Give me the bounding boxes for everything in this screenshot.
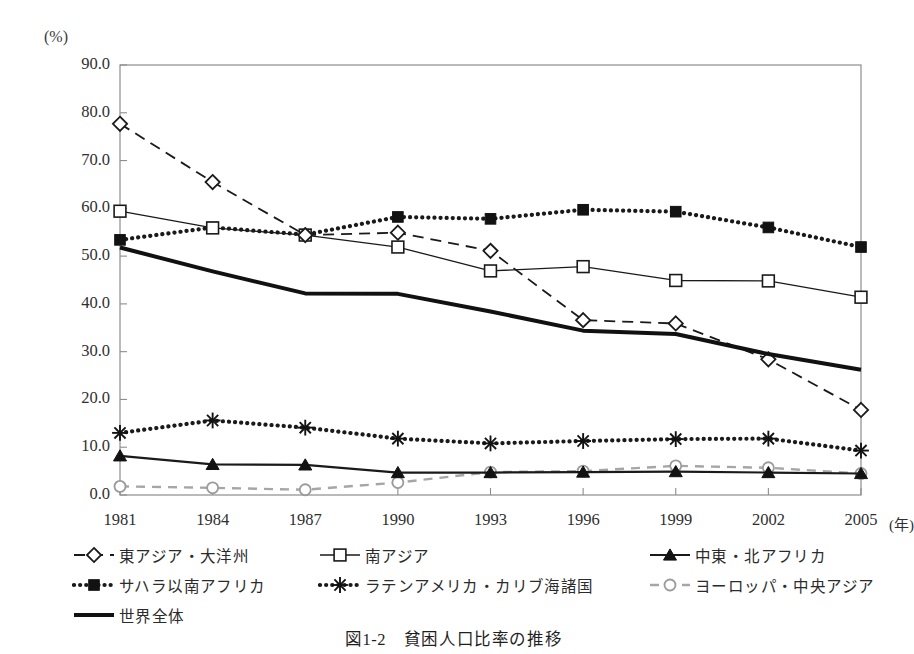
legend-item[interactable]: サハラ以南アフリカ [72, 570, 266, 600]
y-tick-label: 10.0 [48, 436, 110, 456]
marker-filled-square [670, 206, 681, 217]
legend-item[interactable]: ヨーロッパ・中央アジア [648, 570, 874, 600]
legend-item-label: ヨーロッパ・中央アジア [695, 574, 874, 596]
x-tick-label: 2005 [826, 510, 896, 530]
marker-filled-square [856, 242, 867, 253]
marker-open-square [670, 275, 682, 287]
marker-open-square [577, 261, 589, 273]
y-tick-label: 90.0 [48, 54, 110, 74]
legend-item-label: ラテンアメリカ・カリブ海諸国 [365, 574, 594, 596]
legend-item-label: 南アジア [365, 544, 430, 566]
marker-open-circle [115, 481, 126, 492]
x-tick-label: 1990 [363, 510, 433, 530]
legend-row: 東アジア・大洋州南アジア中東・北アフリカ [0, 540, 907, 570]
y-tick-label: 20.0 [48, 388, 110, 408]
plot-frame [120, 65, 861, 495]
y-tick-label: 30.0 [48, 341, 110, 361]
legend-symbol-asterisk-dotted [318, 576, 362, 594]
marker-filled-square [393, 212, 404, 223]
marker-filled-square [485, 214, 496, 225]
marker-open-diamond [669, 316, 683, 330]
y-tick-label: 70.0 [48, 150, 110, 170]
marker-open-diamond [113, 117, 127, 131]
marker-open-diamond [576, 313, 590, 327]
x-tick-label: 1981 [85, 510, 155, 530]
y-tick-label: 50.0 [48, 245, 110, 265]
marker-open-circle [300, 484, 311, 495]
legend-row: サハラ以南アフリカラテンアメリカ・カリブ海諸国ヨーロッパ・中央アジア [0, 570, 907, 600]
marker-open-square [855, 291, 867, 303]
marker-filled-square [578, 204, 589, 215]
marker-open-square [114, 205, 126, 217]
marker-filled-square [763, 222, 774, 233]
legend-item-label: 中東・北アフリカ [695, 544, 826, 566]
y-tick-label: 0.0 [48, 484, 110, 504]
marker-open-circle [207, 482, 218, 493]
marker-open-diamond [391, 226, 405, 240]
x-tick-label: 1996 [548, 510, 618, 530]
marker-open-diamond [483, 244, 497, 258]
legend-symbol-open-square-solid [318, 546, 362, 564]
x-tick-label: 1999 [641, 510, 711, 530]
marker-open-square [334, 549, 346, 561]
chart-plot-area [0, 0, 907, 540]
legend-symbol-filled-square-dotted [72, 576, 116, 594]
marker-open-diamond [87, 548, 101, 562]
legend-item[interactable]: 東アジア・大洋州 [72, 540, 249, 570]
marker-open-circle [392, 477, 403, 488]
legend-item[interactable]: 南アジア [318, 540, 430, 570]
legend-item-label: 東アジア・大洋州 [119, 544, 249, 566]
series-4 [112, 413, 869, 459]
legend-item[interactable]: ラテンアメリカ・カリブ海諸国 [318, 570, 594, 600]
y-tick-label: 40.0 [48, 293, 110, 313]
legend-symbol-open-diamond-dashed [72, 546, 116, 564]
x-tick-label: 1984 [178, 510, 248, 530]
marker-open-diamond [854, 403, 868, 417]
marker-filled-square [115, 235, 126, 246]
x-tick-label: 2002 [733, 510, 803, 530]
legend-item-label: 世界全体 [119, 604, 185, 626]
marker-open-square [392, 241, 404, 253]
chart-legend: 東アジア・大洋州南アジア中東・北アフリカサハラ以南アフリカラテンアメリカ・カリブ… [0, 540, 907, 630]
legend-symbol-open-circle-dashed-gray [648, 576, 692, 594]
legend-item[interactable]: 中東・北アフリカ [648, 540, 826, 570]
x-tick-label: 1993 [456, 510, 526, 530]
legend-symbol-filled-triangle-solid [648, 546, 692, 564]
legend-symbol-thick-solid [72, 606, 116, 624]
marker-filled-square [89, 580, 100, 591]
x-tick-label: 1987 [270, 510, 340, 530]
figure-caption: 図1-2 貧困人口比率の推移 [0, 626, 907, 650]
legend-item-label: サハラ以南アフリカ [119, 574, 266, 596]
marker-open-square [762, 275, 774, 287]
marker-open-circle [665, 580, 676, 591]
series-2 [114, 450, 868, 479]
y-tick-label: 80.0 [48, 102, 110, 122]
marker-open-square [485, 265, 497, 277]
x-axis-unit-label: (年) [889, 513, 914, 534]
marker-open-square [207, 222, 219, 234]
marker-open-diamond [206, 175, 220, 189]
y-tick-label: 60.0 [48, 197, 110, 217]
